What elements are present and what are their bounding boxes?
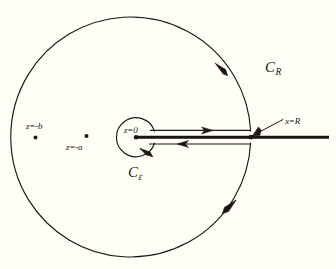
point-marker-x-equals-r <box>249 135 254 140</box>
label-z-zero: z=0 <box>124 126 137 135</box>
outer-arc-arrowhead-lower <box>223 200 237 214</box>
contour-diagram-canvas <box>0 0 336 269</box>
label-c-epsilon: Cε <box>128 165 142 182</box>
label-c-epsilon-subscript: ε <box>138 172 142 182</box>
point-marker-origin <box>134 135 138 139</box>
label-c-epsilon-base: C <box>128 164 138 180</box>
point-marker-z-minus-a <box>85 134 89 138</box>
label-c-r-subscript: R <box>275 67 281 77</box>
outer-arc-arrowhead-upper <box>216 64 228 76</box>
label-c-r-base: C <box>265 59 275 75</box>
x-equals-r-pointer <box>253 120 284 136</box>
label-x-equals-r: x=R <box>285 117 300 126</box>
label-z-minus-b: z=-b <box>26 122 42 131</box>
label-c-r: CR <box>265 60 281 77</box>
label-z-minus-a: z=-a <box>66 143 82 152</box>
contour-diagram-figure: CR Cε z=0 z=-b z=-a x=R <box>0 0 336 269</box>
point-marker-z-minus-b <box>34 136 38 140</box>
